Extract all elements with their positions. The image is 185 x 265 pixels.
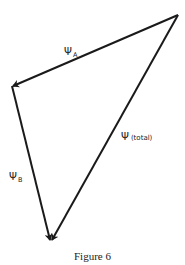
- psi-b-subscript: B: [18, 176, 22, 184]
- psi-total-symbol: Ψ: [121, 131, 129, 142]
- psi-total-label: Ψ(total): [121, 132, 152, 142]
- vector-psi-b-arrow: [12, 86, 50, 240]
- psi-a-label: ΨA: [64, 47, 77, 57]
- psi-b-symbol: Ψ: [9, 171, 17, 182]
- psi-a-symbol: Ψ: [64, 46, 72, 57]
- psi-b-label: ΨB: [9, 172, 22, 182]
- figure-caption: Figure 6: [0, 250, 185, 262]
- psi-a-subscript: A: [73, 51, 77, 59]
- psi-total-subscript: (total): [131, 134, 152, 142]
- vector-triangle-diagram: [0, 0, 185, 265]
- vector-psi-a-arrow: [13, 15, 178, 86]
